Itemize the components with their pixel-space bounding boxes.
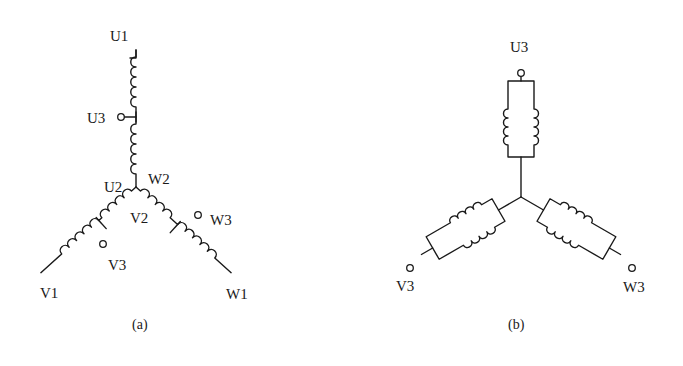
phase-u-parallel-coils [504, 70, 539, 197]
w-stem [521, 197, 544, 210]
v3-terminal-icon [100, 241, 107, 248]
caption-b: (b) [508, 317, 525, 333]
u-lower-coil [131, 117, 136, 187]
label-u3: U3 [87, 110, 105, 126]
w-coil-box [535, 195, 618, 263]
label-v3: V3 [108, 257, 126, 273]
label-w1: W1 [226, 286, 248, 302]
label-u3-b: U3 [510, 39, 528, 55]
w-lead [609, 248, 620, 255]
v-coil-box [424, 195, 507, 263]
w3-terminal-icon [195, 212, 202, 219]
figure-canvas: U1 U3 U2 W2 V2 W3 V3 V1 W1 (a) [0, 0, 683, 366]
label-v2: V2 [130, 210, 148, 226]
w3-terminal-icon-b [629, 265, 636, 272]
label-v1: V1 [40, 285, 58, 301]
u3-terminal-icon [118, 114, 125, 121]
label-v3-b: V3 [396, 278, 414, 294]
label-u1: U1 [110, 28, 128, 44]
u3-terminal-icon-b [518, 70, 525, 77]
label-w3-b: W3 [623, 279, 645, 295]
u-coil-box [504, 81, 539, 157]
diagram-a: U1 U3 U2 W2 V2 W3 V3 V1 W1 (a) [37, 28, 247, 333]
label-w3: W3 [210, 212, 232, 228]
phase-w-parallel-coils [512, 182, 629, 270]
phase-u-winding [118, 50, 136, 187]
v3-terminal-icon-b [407, 265, 414, 272]
phase-v-winding [37, 183, 143, 281]
label-u2: U2 [104, 179, 122, 195]
caption-a: (a) [132, 317, 148, 333]
v-stem [498, 197, 521, 210]
label-w2: W2 [148, 171, 170, 187]
u3-tap-line [124, 112, 136, 122]
phase-w-winding [129, 183, 235, 281]
u-upper-coil [131, 50, 136, 117]
diagram-b: U3 V3 W3 (b) [396, 39, 645, 333]
phase-v-parallel-coils [413, 182, 530, 270]
v-lead [421, 248, 432, 255]
